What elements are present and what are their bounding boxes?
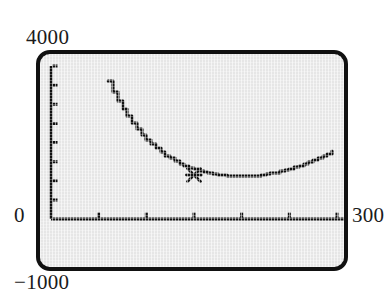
- y-max-label: 4000: [26, 27, 69, 48]
- x-max-label: 300: [352, 205, 384, 226]
- y-min-label: −1000: [14, 272, 69, 293]
- x-min-label: 0: [14, 205, 25, 226]
- calculator-screenshot: 4000 0 300 −1000: [0, 0, 390, 307]
- graph-plot[interactable]: [40, 54, 344, 267]
- calculator-lcd-screen[interactable]: [36, 50, 348, 271]
- y-axis-ticks: [52, 66, 57, 200]
- cost-curve: [108, 81, 332, 176]
- axes: [51, 66, 344, 219]
- x-axis-ticks: [99, 213, 337, 218]
